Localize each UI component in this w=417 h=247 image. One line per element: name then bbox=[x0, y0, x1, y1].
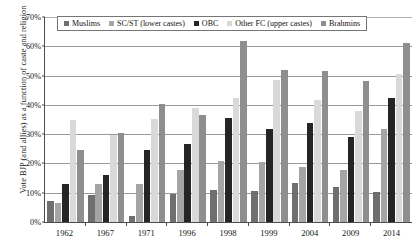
bar bbox=[273, 80, 280, 222]
bar-group-2004 bbox=[290, 17, 331, 222]
bar bbox=[403, 43, 410, 222]
legend-item-sc-st-lower-castes[interactable]: SC/ST (lower castes) bbox=[109, 19, 185, 28]
y-tick-label: 70% bbox=[26, 13, 41, 22]
x-axis-label-1967: 1967 bbox=[85, 228, 126, 238]
bar bbox=[233, 98, 240, 222]
bar bbox=[281, 70, 288, 222]
legend-swatch-icon bbox=[109, 21, 114, 26]
bar bbox=[151, 119, 158, 222]
bar bbox=[70, 120, 77, 223]
bar bbox=[292, 183, 299, 222]
bar-group-2009 bbox=[330, 17, 371, 222]
bar bbox=[177, 170, 184, 222]
y-tick-label: 0% bbox=[30, 218, 41, 227]
y-tick-label: 40% bbox=[26, 100, 41, 109]
legend-swatch-icon bbox=[64, 21, 69, 26]
x-axis-label-1996: 1996 bbox=[167, 228, 208, 238]
x-tick-mark bbox=[207, 222, 208, 226]
legend-label: Other FC (upper castes) bbox=[235, 19, 312, 28]
bar bbox=[118, 133, 125, 222]
x-axis-label-2009: 2009 bbox=[330, 228, 371, 238]
x-axis-label-1971: 1971 bbox=[126, 228, 167, 238]
bar bbox=[240, 41, 247, 222]
bar bbox=[62, 184, 69, 222]
bar-group-2014 bbox=[371, 17, 412, 222]
bar bbox=[77, 150, 84, 222]
legend-item-brahmins[interactable]: Brahmins bbox=[321, 19, 360, 28]
legend-swatch-icon bbox=[194, 21, 199, 26]
legend-item-obc[interactable]: OBC bbox=[194, 19, 218, 28]
x-axis-label-2014: 2014 bbox=[371, 228, 412, 238]
legend-item-other-fc-upper-castes[interactable]: Other FC (upper castes) bbox=[227, 19, 312, 28]
bar bbox=[333, 187, 340, 222]
bar-group-1971 bbox=[127, 17, 168, 222]
x-axis-label-1962: 1962 bbox=[44, 228, 85, 238]
bar bbox=[373, 192, 380, 222]
bar bbox=[136, 184, 143, 222]
bar bbox=[110, 135, 117, 222]
chart-legend: MuslimsSC/ST (lower castes)OBCOther FC (… bbox=[57, 16, 367, 31]
bar bbox=[381, 129, 388, 222]
bar-group-1998 bbox=[208, 17, 249, 222]
x-axis-labels: 196219671971199619981999200420092014 bbox=[44, 228, 412, 238]
bar bbox=[144, 150, 151, 222]
bar bbox=[307, 123, 314, 222]
bar bbox=[103, 175, 110, 222]
bar bbox=[47, 201, 54, 222]
bar bbox=[299, 167, 306, 222]
bar bbox=[266, 129, 273, 222]
bar bbox=[348, 137, 355, 222]
bar-group-1962 bbox=[45, 17, 86, 222]
legend-item-muslims[interactable]: Muslims bbox=[64, 19, 100, 28]
bar bbox=[340, 170, 347, 222]
bar bbox=[314, 100, 321, 222]
bar bbox=[88, 195, 95, 222]
bar bbox=[388, 98, 395, 222]
x-axis-label-1999: 1999 bbox=[248, 228, 289, 238]
x-tick-mark bbox=[85, 222, 86, 226]
bar bbox=[192, 108, 199, 222]
x-tick-mark bbox=[329, 222, 330, 226]
x-tick-mark bbox=[370, 222, 371, 226]
x-axis-label-1998: 1998 bbox=[208, 228, 249, 238]
bar bbox=[184, 144, 191, 222]
plot-area: 0%10%20%30%40%50%60%70% bbox=[44, 17, 412, 223]
bar bbox=[170, 194, 177, 222]
legend-label: Brahmins bbox=[329, 19, 360, 28]
y-tick-label: 30% bbox=[26, 130, 41, 139]
x-axis-label-2004: 2004 bbox=[289, 228, 330, 238]
bar-group-1967 bbox=[86, 17, 127, 222]
y-tick-label: 50% bbox=[26, 71, 41, 80]
bar bbox=[322, 71, 329, 222]
bar bbox=[218, 161, 225, 222]
x-tick-mark bbox=[166, 222, 167, 226]
legend-label: SC/ST (lower castes) bbox=[117, 19, 185, 28]
legend-label: OBC bbox=[202, 19, 218, 28]
x-tick-mark bbox=[126, 222, 127, 226]
bar-group-1999 bbox=[249, 17, 290, 222]
bar bbox=[55, 203, 62, 222]
bar bbox=[95, 184, 102, 222]
bar bbox=[199, 115, 206, 222]
bar bbox=[225, 118, 232, 222]
bar bbox=[363, 81, 370, 222]
bar-group-1996 bbox=[167, 17, 208, 222]
bar bbox=[355, 111, 362, 222]
legend-swatch-icon bbox=[321, 21, 326, 26]
bar bbox=[159, 104, 166, 222]
legend-swatch-icon bbox=[227, 21, 232, 26]
bar-chart: Vote BJP (and allies) as a function of c… bbox=[0, 0, 417, 247]
bar bbox=[129, 216, 136, 222]
x-tick-mark bbox=[248, 222, 249, 226]
bar bbox=[210, 190, 217, 222]
y-tick-label: 20% bbox=[26, 159, 41, 168]
bar bbox=[396, 74, 403, 222]
y-tick-label: 60% bbox=[26, 42, 41, 51]
bar-groups bbox=[45, 17, 412, 222]
y-tick-label: 10% bbox=[26, 188, 41, 197]
legend-label: Muslims bbox=[72, 19, 100, 28]
bar bbox=[251, 191, 258, 222]
bar bbox=[259, 162, 266, 222]
x-tick-mark bbox=[289, 222, 290, 226]
